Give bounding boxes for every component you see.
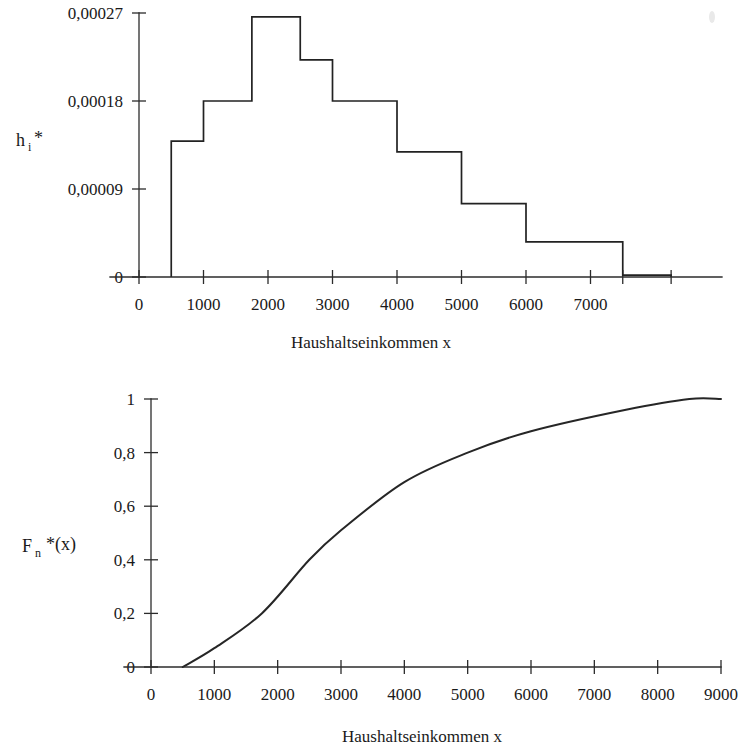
y-tick-label: 0,00009: [68, 180, 123, 199]
histogram-y-tick-labels: 00,000090,000180,00027: [68, 4, 124, 287]
ogive-curve: [183, 398, 721, 667]
x-tick-label: 5000: [445, 295, 479, 314]
statistics-figure: h i * 00,000090,000180,00027 01000200030…: [0, 0, 742, 754]
x-tick-label: 0: [135, 295, 144, 314]
x-tick-label: 0: [147, 685, 156, 704]
x-tick-label: 4000: [380, 295, 414, 314]
scan-artifact: [709, 11, 715, 23]
x-tick-label: 6000: [514, 685, 548, 704]
histogram-x-axis-title: Haushaltseinkommen x: [291, 333, 452, 352]
x-tick-label: 7000: [577, 685, 611, 704]
histogram-y-axis-label-star: *: [34, 128, 43, 148]
y-tick-label: 0,2: [114, 604, 135, 623]
histogram-y-axis-label-subscript: i: [28, 140, 32, 154]
histogram-y-axis-label: h: [16, 130, 25, 150]
histogram-x-tick-labels: 01000200030004000500060007000: [135, 295, 608, 314]
x-tick-label: 3000: [324, 685, 358, 704]
y-tick-label: 0,4: [114, 551, 136, 570]
ogive-y-axis-label-subscript: n: [35, 546, 41, 560]
ogive-y-axis-label: F: [22, 536, 32, 556]
y-tick-label: 0,00018: [68, 92, 123, 111]
y-tick-label: 0,6: [114, 497, 135, 516]
histogram-chart: h i * 00,000090,000180,00027 01000200030…: [0, 0, 742, 370]
y-tick-label: 1: [127, 390, 136, 409]
x-tick-label: 4000: [387, 685, 421, 704]
x-tick-label: 2000: [261, 685, 295, 704]
histogram-bar-outline: [171, 17, 671, 277]
histogram-bars: [171, 17, 671, 277]
ogive-y-axis-label-star: *(x): [46, 534, 76, 555]
y-tick-label: 0,00027: [68, 4, 124, 23]
x-tick-label: 8000: [641, 685, 675, 704]
x-tick-label: 1000: [197, 685, 231, 704]
y-tick-label: 0,8: [114, 444, 135, 463]
x-tick-label: 5000: [451, 685, 485, 704]
ogive-chart: F n *(x) 00,20,40,60,81 0100020003000400…: [0, 370, 742, 754]
x-tick-label: 2000: [251, 295, 285, 314]
ogive-y-tick-labels: 00,20,40,60,81: [114, 390, 136, 677]
x-tick-label: 3000: [316, 295, 350, 314]
x-tick-label: 6000: [509, 295, 543, 314]
ogive-x-axis-title: Haushaltseinkommen x: [342, 727, 503, 746]
x-tick-label: 1000: [187, 295, 221, 314]
x-tick-label: 7000: [574, 295, 608, 314]
ogive-x-tick-labels: 0100020003000400050006000700080009000: [147, 685, 738, 704]
x-tick-label: 9000: [704, 685, 738, 704]
